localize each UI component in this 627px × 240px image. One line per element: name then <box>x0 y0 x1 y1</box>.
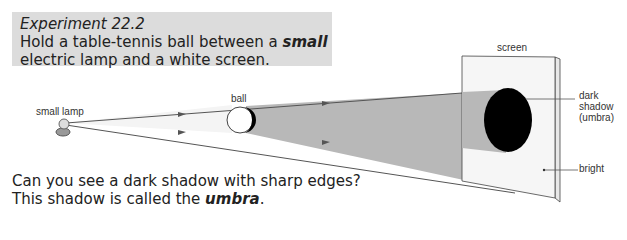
ball-icon <box>227 107 253 133</box>
lamp-label: small lamp <box>36 106 84 117</box>
screen-label: screen <box>497 42 527 53</box>
arrow-icon <box>178 130 186 135</box>
question-line-2-end: . <box>260 190 265 208</box>
question-line-2-text: This shadow is called the <box>12 190 205 208</box>
ball-label: ball <box>231 93 247 104</box>
lamp-bulb-icon <box>59 119 69 129</box>
bright-label: bright <box>579 163 604 174</box>
screen-edge <box>555 57 560 202</box>
question-text: Can you see a dark shadow with sharp edg… <box>12 172 361 208</box>
bright-dot <box>543 169 545 171</box>
umbra <box>484 88 532 152</box>
umbra-term: umbra <box>205 190 260 208</box>
shadow-label-3: (umbra) <box>579 112 614 123</box>
shadow-label-2: shadow <box>579 101 614 112</box>
shadow-label: dark shadow (umbra) <box>579 90 614 123</box>
question-line-2: This shadow is called the umbra. <box>12 190 361 208</box>
question-line-1: Can you see a dark shadow with sharp edg… <box>12 172 361 190</box>
shadow-label-1: dark <box>579 90 614 101</box>
